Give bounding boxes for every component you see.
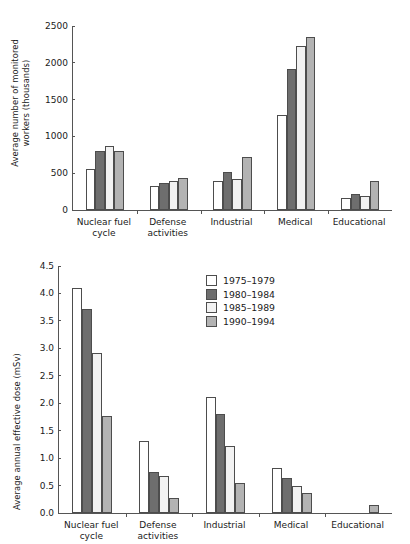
y-axis-tick-label: 4.0 bbox=[40, 288, 58, 298]
bar bbox=[213, 181, 223, 210]
y-axis-tick-mark bbox=[72, 173, 75, 174]
y-axis-tick-mark bbox=[58, 320, 61, 321]
x-axis-category-label: Defense activities bbox=[125, 520, 192, 542]
x-axis-category-label: Industrial bbox=[200, 217, 264, 228]
x-axis-category-label: Medical bbox=[258, 520, 325, 531]
bar bbox=[159, 183, 169, 210]
x-axis-category-label: Defense activities bbox=[136, 217, 200, 239]
chart-dose: Average annual effective dose (mSv) 1975… bbox=[0, 260, 410, 544]
x-axis-tick-mark bbox=[325, 513, 326, 517]
x-axis-category-label: Medical bbox=[263, 217, 327, 228]
x-axis-tick-mark bbox=[137, 210, 138, 214]
bar bbox=[225, 446, 235, 513]
bar-group bbox=[139, 266, 179, 513]
bar bbox=[296, 46, 306, 210]
y-axis-tick-mark bbox=[72, 62, 75, 63]
bar bbox=[72, 288, 82, 513]
bar bbox=[216, 414, 226, 513]
chart-workers-bars bbox=[73, 26, 392, 210]
x-axis-tick-mark bbox=[259, 513, 260, 517]
bar-group bbox=[339, 266, 379, 513]
y-axis-tick-label: 2000 bbox=[45, 58, 72, 68]
bar bbox=[150, 186, 160, 210]
bar-group bbox=[272, 266, 312, 513]
y-axis-tick-mark bbox=[58, 403, 61, 404]
x-axis-tick-mark bbox=[201, 210, 202, 214]
bar bbox=[282, 478, 292, 513]
y-axis-tick-label: 3.5 bbox=[40, 316, 58, 326]
bar bbox=[169, 181, 179, 210]
bar bbox=[360, 196, 370, 210]
x-axis-category-label: Industrial bbox=[191, 520, 258, 531]
bar bbox=[287, 69, 297, 210]
y-axis-tick-mark bbox=[72, 99, 75, 100]
y-axis-tick-mark bbox=[58, 430, 61, 431]
chart-dose-x-axis bbox=[58, 513, 392, 514]
chart-workers-plot-area: 05001000150020002500Nuclear fuel cycleDe… bbox=[72, 26, 392, 211]
y-axis-tick-mark bbox=[72, 136, 75, 137]
y-axis-tick-label: 0 bbox=[62, 205, 72, 215]
y-axis-tick-mark bbox=[58, 348, 61, 349]
chart-workers: Average number of monitored workers (tho… bbox=[0, 0, 410, 248]
y-axis-tick-mark bbox=[58, 485, 61, 486]
legend-item-label: 1980–1984 bbox=[223, 289, 275, 300]
y-axis-tick-label: 4.5 bbox=[40, 261, 58, 271]
bar bbox=[102, 416, 112, 513]
chart-dose-plot-area: 1975–19791980–19841985–19891990–1994 0.0… bbox=[58, 266, 392, 514]
legend-item-label: 1990–1994 bbox=[223, 316, 275, 327]
chart-dose-legend: 1975–19791980–19841985–19891990–1994 bbox=[206, 274, 275, 328]
bar bbox=[232, 179, 242, 210]
bar bbox=[302, 493, 312, 513]
legend-item: 1980–1984 bbox=[206, 288, 275, 302]
bar bbox=[206, 397, 216, 513]
y-axis-tick-label: 0.5 bbox=[40, 481, 58, 491]
bar bbox=[351, 194, 361, 210]
bar bbox=[95, 151, 105, 210]
bar bbox=[223, 172, 233, 210]
bar bbox=[82, 309, 92, 513]
chart-workers-x-axis bbox=[72, 210, 392, 211]
y-axis-tick-mark bbox=[72, 26, 75, 27]
y-axis-tick-mark bbox=[58, 513, 61, 514]
chart-workers-y-axis-label: Average number of monitored workers (tho… bbox=[10, 10, 32, 196]
bar bbox=[169, 498, 179, 513]
legend-item: 1985–1989 bbox=[206, 301, 275, 315]
y-axis-tick-label: 2.5 bbox=[40, 371, 58, 381]
legend-color-swatch bbox=[206, 275, 217, 286]
bar-group bbox=[72, 266, 112, 513]
bar bbox=[235, 483, 245, 513]
y-axis-tick-mark bbox=[58, 293, 61, 294]
y-axis-tick-label: 0.0 bbox=[40, 508, 58, 518]
x-axis-tick-mark bbox=[192, 513, 193, 517]
bar bbox=[369, 505, 379, 513]
chart-dose-y-axis-label: Average annual effective dose (mSv) bbox=[12, 353, 22, 510]
bar-group bbox=[213, 26, 251, 210]
x-axis-tick-mark bbox=[264, 210, 265, 214]
y-axis-tick-label: 1000 bbox=[45, 131, 72, 141]
y-axis-tick-label: 1.0 bbox=[40, 453, 58, 463]
y-axis-tick-label: 3.0 bbox=[40, 343, 58, 353]
bar bbox=[370, 181, 380, 210]
x-axis-category-label: Educational bbox=[324, 520, 391, 531]
x-axis-tick-mark bbox=[126, 513, 127, 517]
bar bbox=[292, 486, 302, 513]
bar bbox=[159, 476, 169, 513]
y-axis-tick-label: 1500 bbox=[45, 95, 72, 105]
legend-item: 1990–1994 bbox=[206, 315, 275, 329]
bar bbox=[114, 151, 124, 210]
figure-page: Average number of monitored workers (tho… bbox=[0, 0, 410, 544]
bar-group bbox=[341, 26, 379, 210]
bar bbox=[306, 37, 316, 210]
bar-group bbox=[150, 26, 188, 210]
x-axis-category-label: Educational bbox=[327, 217, 391, 228]
legend-color-swatch bbox=[206, 289, 217, 300]
x-axis-tick-mark bbox=[328, 210, 329, 214]
bar bbox=[341, 198, 351, 210]
bar bbox=[178, 178, 188, 210]
bar bbox=[272, 468, 282, 513]
y-axis-tick-label: 500 bbox=[51, 168, 72, 178]
legend-item-label: 1975–1979 bbox=[223, 275, 275, 286]
y-axis-tick-label: 2500 bbox=[45, 21, 72, 31]
legend-item-label: 1985–1989 bbox=[223, 302, 275, 313]
bar bbox=[105, 146, 115, 210]
